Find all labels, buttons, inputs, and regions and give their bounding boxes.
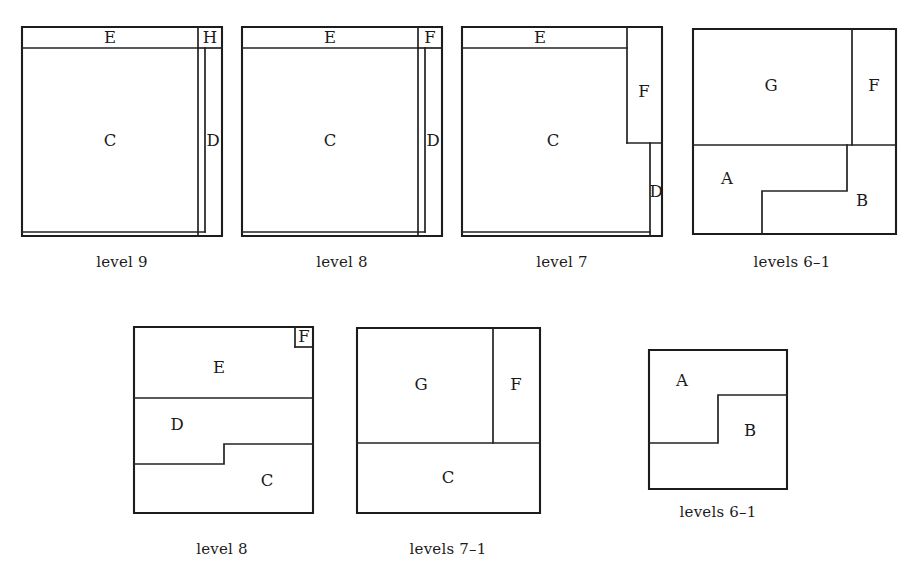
diagram-2-cell-label-D: D bbox=[426, 131, 439, 150]
diagram-4-cell-label-F: F bbox=[868, 76, 879, 95]
partition-diagrams-svg: EHCDEFCDEFCDGFABFEDCGFCAB bbox=[0, 0, 917, 572]
diagram-7-cell-label-B: B bbox=[744, 421, 756, 440]
diagram-4-cell-label-A: A bbox=[720, 169, 734, 188]
diagram-2-caption: level 8 bbox=[316, 253, 368, 271]
diagram-4-cell-label-G: G bbox=[764, 76, 777, 95]
diagram-6-cell-label-G: G bbox=[414, 375, 427, 394]
diagram-2-cell-label-E: E bbox=[324, 28, 336, 47]
diagram-5-dc-step-boundary bbox=[134, 444, 313, 464]
diagram-5-cell-label-C: C bbox=[261, 471, 274, 490]
diagram-3-cell-label-E: E bbox=[534, 28, 546, 47]
diagram-3: EFCD bbox=[462, 27, 663, 236]
diagram-2-cell-label-C: C bbox=[324, 131, 337, 150]
diagram-4-cell-label-B: B bbox=[856, 191, 868, 210]
diagram-1-outer-frame bbox=[22, 27, 222, 236]
diagram-5-cell-label-D: D bbox=[170, 415, 183, 434]
diagram-5-cell-label-E: E bbox=[213, 358, 225, 377]
diagram-4-caption: levels 6–1 bbox=[754, 253, 831, 271]
diagram-1-cell-label-H: H bbox=[203, 28, 217, 47]
diagram-3-cell-label-D: D bbox=[649, 182, 662, 201]
diagram-7-cell-label-A: A bbox=[675, 371, 689, 390]
diagram-1-cell-label-D: D bbox=[206, 131, 219, 150]
diagram-3-caption: level 7 bbox=[536, 253, 588, 271]
diagram-6: GFC bbox=[357, 328, 540, 513]
diagram-6-cell-label-C: C bbox=[442, 468, 455, 487]
diagram-3-cell-label-F: F bbox=[638, 82, 649, 101]
diagram-1-cell-label-C: C bbox=[104, 131, 117, 150]
diagram-1: EHCD bbox=[22, 27, 222, 236]
diagram-7-caption: levels 6–1 bbox=[680, 503, 757, 521]
diagram-5-outer-frame bbox=[134, 327, 313, 513]
diagram-3-outer-frame bbox=[462, 27, 662, 236]
diagram-6-cell-label-F: F bbox=[510, 375, 521, 394]
diagram-6-caption: levels 7–1 bbox=[410, 540, 487, 558]
diagram-1-cell-label-E: E bbox=[104, 28, 116, 47]
diagram-1-caption: level 9 bbox=[96, 253, 148, 271]
diagram-5: FEDC bbox=[134, 327, 313, 514]
figure-root: EHCDEFCDEFCDGFABFEDCGFCAB level 9level 8… bbox=[0, 0, 917, 572]
diagram-5-cell-label-F: F bbox=[298, 327, 309, 346]
diagram-7: AB bbox=[649, 350, 787, 489]
diagram-3-cell-label-C: C bbox=[547, 131, 560, 150]
diagram-4-ab-step-boundary bbox=[762, 145, 847, 234]
diagram-4: GFAB bbox=[693, 29, 896, 234]
diagram-5-caption: level 8 bbox=[196, 540, 248, 558]
diagram-2-cell-label-F: F bbox=[424, 28, 435, 47]
diagram-2: EFCD bbox=[242, 27, 442, 236]
diagram-2-outer-frame bbox=[242, 27, 442, 236]
diagram-7-ab-step-boundary bbox=[649, 395, 787, 443]
